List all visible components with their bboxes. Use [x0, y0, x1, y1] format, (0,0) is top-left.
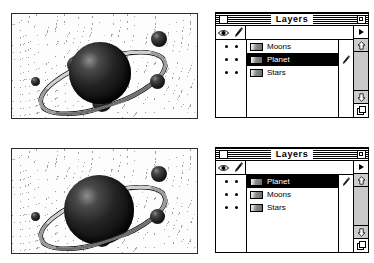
active-layer-column	[338, 175, 353, 252]
layer-thumbnail	[250, 204, 263, 212]
layers-palette-bottom[interactable]: Layers	[215, 147, 369, 253]
moon-right	[150, 209, 165, 224]
visibility-dot[interactable]	[225, 45, 228, 48]
layer-thumbnail	[250, 178, 263, 186]
active-layer-slot	[339, 201, 353, 214]
scroll-down-arrow-icon[interactable]	[354, 226, 368, 239]
scroll-down-arrow-icon[interactable]	[354, 91, 368, 104]
zoom-box-icon[interactable]	[357, 150, 366, 159]
layer-row[interactable]: Moons	[247, 40, 338, 53]
moon-left-small	[31, 212, 40, 221]
close-box-icon[interactable]	[219, 150, 228, 159]
artwork-canvas-bottom[interactable]	[11, 148, 198, 254]
active-layer-slot	[339, 188, 353, 201]
zoom-box-icon[interactable]	[357, 15, 366, 24]
artwork-canvas-top[interactable]	[11, 13, 198, 119]
moon-left-small	[31, 77, 40, 86]
palette-title: Layers	[216, 14, 368, 25]
moon-upper-right	[151, 166, 167, 182]
palette-menu-triangle-icon[interactable]	[354, 161, 368, 174]
active-layer-slot	[339, 66, 353, 79]
palette-menu-triangle-icon[interactable]	[354, 26, 368, 39]
eye-icon[interactable]	[216, 29, 231, 37]
layer-row[interactable]: Moons	[247, 188, 338, 201]
visibility-dot[interactable]	[225, 58, 228, 61]
palette-right-rail[interactable]	[353, 26, 368, 117]
layer-row[interactable]: Planet	[247, 175, 338, 188]
active-pencil-icon	[342, 177, 350, 187]
top-figure: Layers	[0, 0, 374, 128]
layer-name: Moons	[267, 42, 291, 51]
active-layer-slot	[339, 40, 353, 53]
active-layer-slot[interactable]	[339, 53, 353, 66]
visibility-dot[interactable]	[225, 71, 228, 74]
scroll-up-arrow-icon[interactable]	[354, 39, 368, 52]
moon-upper-right	[151, 31, 167, 47]
layer-toggles-row[interactable]	[216, 40, 246, 53]
layer-thumbnail	[250, 43, 263, 51]
layers-palette-top[interactable]: Layers	[215, 12, 369, 118]
layer-thumbnail	[250, 191, 263, 199]
layer-name: Moons	[267, 190, 291, 199]
column-header-spacer	[245, 26, 353, 39]
vertical-scrollbar-track[interactable]	[354, 187, 368, 226]
palette-title: Layers	[216, 149, 368, 160]
active-pencil-icon	[342, 55, 350, 65]
layer-list-top[interactable]: Moons Planet Stars	[216, 40, 353, 117]
layer-toggles-row[interactable]	[216, 201, 246, 214]
layer-toggle-column[interactable]	[216, 175, 246, 252]
edit-dot[interactable]	[235, 206, 238, 209]
layer-rows-column[interactable]: Moons Planet Stars	[246, 40, 338, 117]
palette-titlebar[interactable]: Layers	[216, 13, 368, 26]
layer-row[interactable]: Stars	[247, 66, 338, 79]
visibility-dot[interactable]	[225, 180, 228, 183]
layer-rows-column[interactable]: Planet Moons Stars	[246, 175, 338, 252]
layer-toggles-row[interactable]	[216, 175, 246, 188]
palette-right-rail[interactable]	[353, 161, 368, 252]
bottom-figure: Layers	[0, 135, 374, 263]
layer-name: Stars	[267, 68, 286, 77]
layer-row[interactable]: Planet	[247, 53, 338, 66]
layer-name: Planet	[267, 177, 290, 186]
palette-column-header	[216, 161, 353, 175]
layer-toggles-row[interactable]	[216, 188, 246, 201]
active-layer-slot[interactable]	[339, 175, 353, 188]
pencil-icon[interactable]	[231, 27, 245, 38]
active-layer-column	[338, 40, 353, 117]
layer-list-bottom[interactable]: Planet Moons Stars	[216, 175, 353, 252]
palette-column-header	[216, 26, 353, 40]
visibility-dot[interactable]	[225, 193, 228, 196]
layer-thumbnail	[250, 69, 263, 77]
layer-toggles-row[interactable]	[216, 66, 246, 79]
layer-thumbnail	[250, 56, 263, 64]
pencil-icon[interactable]	[231, 162, 245, 173]
column-header-spacer	[245, 161, 353, 174]
vertical-scrollbar-track[interactable]	[354, 52, 368, 91]
layer-row[interactable]: Stars	[247, 201, 338, 214]
new-layer-icon[interactable]	[354, 239, 368, 252]
visibility-dot[interactable]	[225, 206, 228, 209]
layer-name: Planet	[267, 55, 290, 64]
moon-right	[150, 74, 165, 89]
palette-titlebar[interactable]: Layers	[216, 148, 368, 161]
layer-name: Stars	[267, 203, 286, 212]
edit-dot[interactable]	[235, 71, 238, 74]
new-layer-icon[interactable]	[354, 104, 368, 117]
edit-dot[interactable]	[235, 193, 238, 196]
scroll-up-arrow-icon[interactable]	[354, 174, 368, 187]
close-box-icon[interactable]	[219, 15, 228, 24]
layer-toggle-column[interactable]	[216, 40, 246, 117]
eye-icon[interactable]	[216, 164, 231, 172]
edit-dot[interactable]	[235, 180, 238, 183]
layer-toggles-row[interactable]	[216, 53, 246, 66]
edit-dot[interactable]	[235, 45, 238, 48]
edit-dot[interactable]	[235, 58, 238, 61]
